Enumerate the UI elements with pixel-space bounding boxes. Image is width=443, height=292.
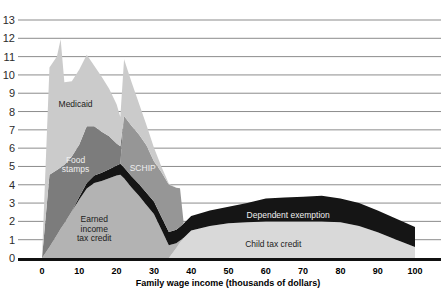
y-axis-tick-label: 8 bbox=[9, 106, 15, 118]
x-axis-tick-label: 100 bbox=[407, 266, 422, 276]
y-axis-tick-label: 10 bbox=[3, 69, 15, 81]
x-axis-tick-label: 30 bbox=[149, 266, 159, 276]
x-axis-tick-label: 60 bbox=[261, 266, 271, 276]
y-axis-tick-label: 11 bbox=[4, 51, 15, 63]
stacked-area-chart: 012345678910111213 010203040506070809010… bbox=[0, 0, 443, 292]
y-axis-tick-label: 9 bbox=[9, 87, 15, 99]
area-label-medicaid: Medicaid bbox=[59, 99, 93, 109]
x-axis-tick-label: 20 bbox=[112, 266, 122, 276]
y-axis-tick-label: 2 bbox=[9, 215, 15, 227]
area-label-earned-income-tax-credit: income bbox=[81, 224, 109, 234]
x-axis-tick-label: 0 bbox=[39, 266, 44, 276]
chart-container: 012345678910111213 010203040506070809010… bbox=[0, 0, 443, 292]
x-axis-title: Family wage income (thousands of dollars… bbox=[136, 278, 321, 288]
y-axis-tick-label: 1 bbox=[9, 234, 15, 246]
x-axis-tick-label: 80 bbox=[335, 266, 345, 276]
y-axis-tick-label: 3 bbox=[9, 197, 15, 209]
y-axis-tick-label: 13 bbox=[3, 14, 15, 26]
y-axis-tick-label: 6 bbox=[9, 142, 15, 154]
area-label-dependent-exemption: Dependent exemption bbox=[247, 210, 330, 220]
x-axis-tick-label: 90 bbox=[373, 266, 383, 276]
area-label-food-stamps: stamps bbox=[62, 164, 89, 174]
area-label-schip: SCHIP bbox=[130, 163, 156, 173]
x-axis-tick-label: 10 bbox=[74, 266, 84, 276]
y-axis-tick-label: 4 bbox=[9, 179, 15, 191]
y-axis-tick-label: 0 bbox=[9, 252, 15, 264]
x-axis-tick-label: 70 bbox=[298, 266, 308, 276]
area-label-child-tax-credit: Child tax credit bbox=[245, 239, 302, 249]
area-label-food-stamps: Food bbox=[66, 155, 86, 165]
x-axis-tick-label: 40 bbox=[186, 266, 196, 276]
area-label-earned-income-tax-credit: tax credit bbox=[77, 233, 112, 243]
y-axis-tick-label: 7 bbox=[9, 124, 15, 136]
y-axis-tick-label: 12 bbox=[3, 32, 15, 44]
area-label-earned-income-tax-credit: Earned bbox=[81, 214, 109, 224]
y-axis-tick-label: 5 bbox=[9, 160, 15, 172]
x-axis-tick-label: 50 bbox=[223, 266, 233, 276]
